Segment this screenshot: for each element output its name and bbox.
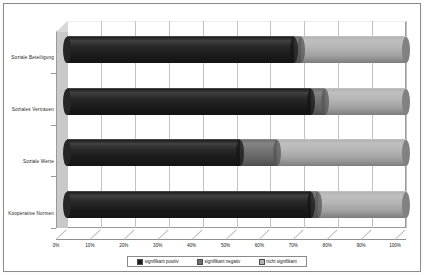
bar-row — [67, 88, 406, 114]
cylinder-shading — [301, 37, 406, 63]
bar-row — [67, 191, 406, 217]
y-axis-tick — [51, 125, 56, 126]
cylinder-seam — [321, 89, 329, 115]
legend-swatch — [197, 259, 203, 265]
bar-segment[interactable] — [67, 191, 311, 218]
legend-item[interactable]: nicht signifikant — [259, 259, 297, 265]
x-tick-label: 90% — [356, 243, 365, 248]
legend-label: signifikant positiv — [145, 259, 179, 264]
cylinder-shading — [67, 140, 240, 166]
cylinder-shading — [67, 192, 311, 218]
bar-segment[interactable] — [67, 139, 240, 166]
cylinder-seam — [297, 37, 305, 63]
x-tick-label: 100% — [389, 243, 401, 248]
x-tick-label: 60% — [255, 243, 264, 248]
bar-segment[interactable] — [67, 36, 294, 63]
cylinder-shading — [325, 89, 406, 115]
cylinder-shading — [318, 192, 406, 218]
bar-segment[interactable] — [325, 88, 406, 115]
bar-segment[interactable] — [301, 36, 406, 63]
x-tick-label: 40% — [187, 243, 196, 248]
legend-label: nicht signifikant — [266, 259, 297, 264]
chart-plot-area: Soziale BeteiligungSoziales VertrauenSoz… — [0, 0, 424, 275]
bar-segment[interactable] — [277, 139, 406, 166]
cylinder-left-cap — [63, 89, 71, 115]
x-axis-line — [56, 239, 406, 240]
cylinder-shading — [277, 140, 406, 166]
chart-screenshot: Soziale BeteiligungSoziales VertrauenSoz… — [0, 0, 424, 275]
y-axis-tick — [51, 73, 56, 74]
y-category-label: Kooperative Normen — [0, 211, 54, 216]
x-tick-label: 50% — [221, 243, 230, 248]
cylinder-left-cap — [63, 192, 71, 218]
x-tick-label: 80% — [323, 243, 332, 248]
legend-item[interactable]: signifikant negativ — [197, 259, 240, 265]
y-axis-tick — [51, 228, 56, 229]
bar-segment[interactable] — [67, 88, 311, 115]
chart-legend: signifikant positivsignifikant negativni… — [127, 256, 307, 267]
y-category-label: Soziales Vertrauen — [0, 107, 54, 112]
cylinder-right-cap — [402, 37, 410, 63]
cylinder-seam — [236, 140, 244, 166]
y-axis-tick — [51, 176, 56, 177]
y-category-label-wrap: Soziale Werte — [0, 159, 54, 164]
x-tick-label: 70% — [289, 243, 298, 248]
y-category-label: Soziale Werte — [0, 159, 54, 164]
legend-label: signifikant negativ — [204, 259, 240, 264]
x-tick-label: 10% — [85, 243, 94, 248]
x-tick-label: 30% — [153, 243, 162, 248]
y-category-label-wrap: Soziale Beteiligung — [0, 55, 54, 60]
bar-segment[interactable] — [240, 139, 277, 166]
cylinder-shading — [67, 89, 311, 115]
x-tick-label: 20% — [119, 243, 128, 248]
bar-row — [67, 139, 406, 165]
cylinder-seam — [314, 192, 322, 218]
cylinder-left-cap — [63, 37, 71, 63]
cylinder-right-cap — [402, 140, 410, 166]
bar-row — [67, 36, 406, 62]
cylinder-left-cap — [63, 140, 71, 166]
cylinder-right-cap — [402, 89, 410, 115]
legend-item[interactable]: signifikant positiv — [137, 259, 179, 265]
legend-swatch — [137, 259, 143, 265]
y-category-label: Soziale Beteiligung — [0, 55, 54, 60]
cylinder-shading — [240, 140, 277, 166]
bar-segment[interactable] — [318, 191, 406, 218]
x-tick-label: 0% — [53, 243, 60, 248]
y-category-label-wrap: Kooperative Normen — [0, 211, 54, 216]
legend-swatch — [259, 259, 265, 265]
cylinder-shading — [67, 37, 294, 63]
cylinder-right-cap — [402, 192, 410, 218]
y-category-label-wrap: Soziales Vertrauen — [0, 107, 54, 112]
